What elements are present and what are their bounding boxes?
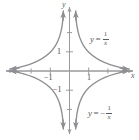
y-axis-label: y <box>62 1 66 9</box>
equation-negative-lhs: y <box>88 109 92 118</box>
arrow-quadrant-I-right <box>120 68 129 69</box>
equation-negative-sign: − <box>100 109 105 118</box>
branch-quadrant-III <box>12 71 63 126</box>
equation-positive-fraction: 1 x <box>103 31 109 47</box>
arrow-quadrant-II-left <box>10 68 19 69</box>
equation-positive-lhs: y <box>90 35 94 44</box>
equation-negative-fraction: 1 x <box>106 105 112 121</box>
axis-lines <box>6 7 133 134</box>
equation-negative-numerator: 1 <box>106 105 112 112</box>
x-tick-label-one: 1 <box>87 74 91 82</box>
arrow-quadrant-IV-right <box>120 71 129 72</box>
equation-negative-denominator: x <box>107 114 112 121</box>
equation-positive-numerator: 1 <box>103 31 109 38</box>
hyperbola-figure: y x −1 1 1 −1 y = 1 x y = − 1 x <box>0 0 139 140</box>
equation-negative-equals: = <box>94 109 99 118</box>
plot-canvas <box>0 0 139 140</box>
x-tick-label-minus-one: −1 <box>44 74 53 82</box>
y-tick-label-minus-one: −1 <box>53 86 62 94</box>
arrow-quadrant-III-left <box>10 71 19 72</box>
x-axis-label: x <box>131 72 135 80</box>
equation-positive-denominator: x <box>103 40 108 47</box>
y-tick-label-one: 1 <box>57 48 61 56</box>
equation-label-negative: y = − 1 x <box>88 105 112 121</box>
equation-positive-equals: = <box>96 35 101 44</box>
branch-quadrant-II <box>12 14 63 69</box>
equation-label-positive: y = 1 x <box>90 31 109 47</box>
